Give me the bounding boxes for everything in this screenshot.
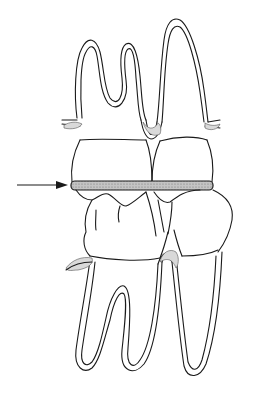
upper-left-root-inner xyxy=(81,47,141,120)
lower-right-cej xyxy=(182,250,218,256)
upper-right-cej xyxy=(160,137,207,141)
lower-right-root-outline xyxy=(172,252,222,376)
upper-right-crown xyxy=(152,141,160,182)
lower-calculus-mid xyxy=(160,250,178,268)
dental-diagram: Occluding maxillary and mandibular molar… xyxy=(0,0,258,398)
mandibular-molars xyxy=(66,190,232,376)
pointer-arrow xyxy=(17,181,68,189)
upper-gingiva-right xyxy=(208,120,220,122)
lower-left-crown xyxy=(76,190,146,206)
upper-left-cej xyxy=(80,139,146,140)
lower-left-root-outline xyxy=(76,260,162,371)
upper-right-root-outline xyxy=(157,19,208,122)
maxillary-molars xyxy=(62,19,220,182)
lower-left-cej xyxy=(90,256,160,260)
upper-calculus-mid xyxy=(143,122,161,135)
upper-left-crown xyxy=(71,140,80,182)
lower-left-root-inner xyxy=(82,262,158,365)
upper-calculus-right xyxy=(205,123,220,130)
upper-right-root-inner xyxy=(162,26,204,122)
interocclusal-strip xyxy=(71,181,213,190)
diagram-canvas xyxy=(0,0,258,398)
upper-calculus-left xyxy=(64,122,82,129)
lower-right-root-inner xyxy=(177,256,216,369)
